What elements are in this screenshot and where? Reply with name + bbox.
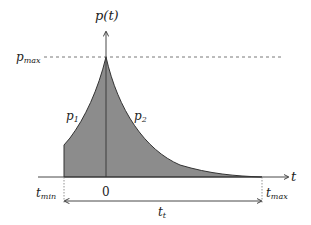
tmin-label: tmin xyxy=(36,186,56,201)
pulse-diagram: p(t) t pmax p1 p2 tmin 0 tmax tt xyxy=(0,0,311,225)
p1-label: p1 xyxy=(66,109,79,124)
x-axis-label: t xyxy=(291,169,297,184)
pmax-label: pmax xyxy=(16,50,41,65)
tt-label: tt xyxy=(158,205,167,220)
tmax-label: tmax xyxy=(266,186,288,201)
p2-label: p2 xyxy=(134,109,147,124)
y-axis-label: p(t) xyxy=(95,8,119,23)
origin-label: 0 xyxy=(102,185,110,199)
pulse-area xyxy=(64,57,262,177)
